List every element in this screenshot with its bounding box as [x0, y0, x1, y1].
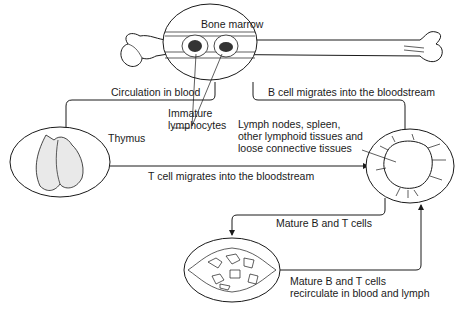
- circulation-label: Circulation in blood: [111, 86, 200, 98]
- bone-marrow-label: Bone marrow: [201, 18, 263, 30]
- immature-label-line1: Immature: [168, 107, 212, 119]
- lymph-vessel-illustration: [184, 238, 280, 302]
- t-cell-label: T cell migrates into the bloodstream: [148, 170, 314, 182]
- lymph-tissues-label-line1: Lymph nodes, spleen,: [238, 118, 340, 130]
- b-cell-label: B cell migrates into the bloodstream: [268, 86, 435, 98]
- bone-marrow-circle: [163, 4, 257, 80]
- lymph-tissues-label-line2: other lymphoid tissues and: [238, 130, 363, 142]
- thymus-illustration: [10, 127, 110, 197]
- mature-label: Mature B and T cells: [276, 217, 372, 229]
- thymus-label: Thymus: [108, 132, 145, 144]
- recirculate-label-line2: recirculate in blood and lymph: [290, 287, 430, 299]
- recirculate-label-line1: Mature B and T cells: [290, 275, 386, 287]
- diagram-graphics: [0, 0, 457, 313]
- lymph-tissues-label-line3: loose connective tissues: [238, 142, 352, 154]
- immature-label-line2: lymphocytes: [168, 119, 226, 131]
- lymph-tissue-illustration: [362, 129, 454, 203]
- diagram-canvas: Bone marrow Circulation in blood B cell …: [0, 0, 457, 313]
